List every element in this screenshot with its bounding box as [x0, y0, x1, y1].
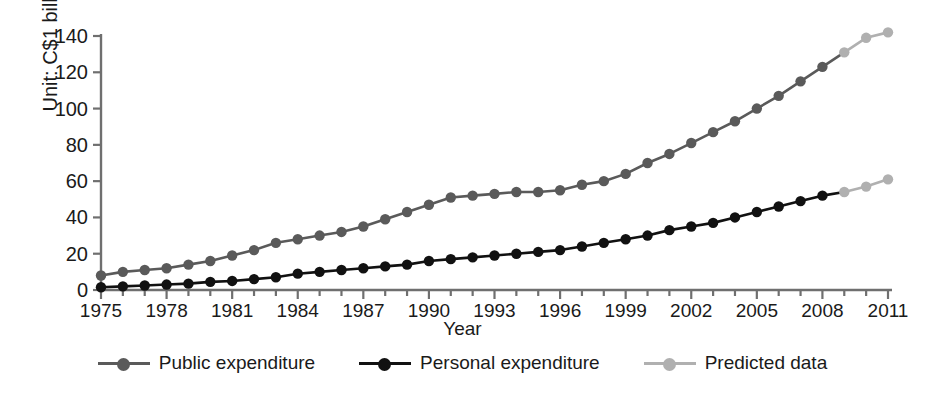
- legend-dot-icon: [663, 358, 676, 371]
- data-point: [161, 279, 171, 289]
- data-point: [271, 238, 281, 248]
- data-point: [314, 267, 324, 277]
- data-point: [664, 225, 674, 235]
- data-point: [424, 200, 434, 210]
- data-point: [577, 241, 587, 251]
- data-point: [533, 247, 543, 257]
- data-point: [183, 259, 193, 269]
- data-point: [708, 218, 718, 228]
- data-point: [708, 127, 718, 137]
- data-point: [817, 62, 827, 72]
- data-point: [642, 230, 652, 240]
- series-public-expenditure: [96, 27, 893, 281]
- legend-item[interactable]: Public expenditure: [98, 352, 315, 374]
- data-point: [249, 245, 259, 255]
- legend-dot-icon: [378, 358, 391, 371]
- chart-canvas: [0, 0, 925, 340]
- legend-label: Personal expenditure: [420, 352, 600, 374]
- data-point: [336, 227, 346, 237]
- data-point: [249, 274, 259, 284]
- data-point: [533, 187, 543, 197]
- predicted-data-point: [839, 47, 849, 57]
- data-point: [358, 221, 368, 231]
- data-point: [227, 276, 237, 286]
- data-point: [446, 192, 456, 202]
- y-tick-label: 20: [28, 242, 88, 265]
- y-tick-label: 40: [28, 206, 88, 229]
- data-point: [118, 267, 128, 277]
- data-point: [467, 190, 477, 200]
- y-tick-label: 60: [28, 170, 88, 193]
- data-point: [293, 268, 303, 278]
- data-point: [642, 158, 652, 168]
- predicted-data-point: [861, 33, 871, 43]
- data-point: [358, 263, 368, 273]
- predicted-data-point: [883, 174, 893, 184]
- data-point: [599, 176, 609, 186]
- data-point: [424, 256, 434, 266]
- data-point: [620, 169, 630, 179]
- predicted-data-point: [861, 181, 871, 191]
- predicted-data-point: [839, 187, 849, 197]
- data-point: [96, 282, 106, 292]
- data-point: [489, 250, 499, 260]
- data-point: [686, 221, 696, 231]
- y-tick-label: 80: [28, 133, 88, 156]
- plot-area: [0, 0, 925, 340]
- data-point: [183, 278, 193, 288]
- chart-figure: Unit: C$1 billion Year 02040608010012014…: [0, 0, 925, 401]
- data-point: [577, 180, 587, 190]
- data-point: [773, 91, 783, 101]
- data-point: [402, 207, 412, 217]
- data-point: [599, 238, 609, 248]
- legend-item[interactable]: Predicted data: [644, 352, 828, 374]
- legend-marker-icon: [644, 355, 696, 371]
- data-point: [511, 249, 521, 259]
- legend-label: Predicted data: [705, 352, 828, 374]
- data-point: [489, 189, 499, 199]
- data-point: [293, 234, 303, 244]
- data-point: [730, 116, 740, 126]
- x-tick-label: 2011: [848, 300, 925, 322]
- data-point: [227, 250, 237, 260]
- legend-marker-icon: [98, 355, 150, 371]
- predicted-data-point: [883, 27, 893, 37]
- data-point: [664, 149, 674, 159]
- y-tick-label: 0: [28, 279, 88, 302]
- data-point: [773, 201, 783, 211]
- data-point: [96, 270, 106, 280]
- data-point: [271, 272, 281, 282]
- data-point: [511, 187, 521, 197]
- data-point: [795, 196, 805, 206]
- data-point: [314, 230, 324, 240]
- y-tick-label: 100: [28, 97, 88, 120]
- data-point: [205, 277, 215, 287]
- legend-label: Public expenditure: [159, 352, 315, 374]
- data-point: [446, 254, 456, 264]
- data-point: [795, 76, 805, 86]
- data-point: [380, 214, 390, 224]
- data-point: [402, 259, 412, 269]
- legend-dot-icon: [117, 358, 130, 371]
- data-point: [555, 245, 565, 255]
- legend-item[interactable]: Personal expenditure: [359, 352, 600, 374]
- data-point: [620, 234, 630, 244]
- data-point: [817, 190, 827, 200]
- data-point: [467, 252, 477, 262]
- data-point: [118, 281, 128, 291]
- y-tick-label: 120: [28, 61, 88, 84]
- data-point: [336, 265, 346, 275]
- data-point: [686, 138, 696, 148]
- data-point: [752, 207, 762, 217]
- data-point: [555, 185, 565, 195]
- data-point: [205, 256, 215, 266]
- data-point: [140, 280, 150, 290]
- data-point: [730, 212, 740, 222]
- chart-legend: Public expenditurePersonal expenditurePr…: [0, 352, 925, 374]
- data-point: [752, 103, 762, 113]
- data-point: [380, 261, 390, 271]
- legend-marker-icon: [359, 355, 411, 371]
- data-point: [140, 265, 150, 275]
- y-tick-label: 140: [28, 25, 88, 48]
- data-point: [161, 263, 171, 273]
